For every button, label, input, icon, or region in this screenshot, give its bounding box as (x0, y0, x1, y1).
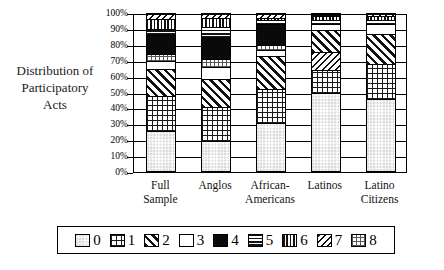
bar-segment-7[interactable] (146, 13, 176, 19)
bar-segment-3[interactable] (311, 24, 341, 30)
bar-segment-1[interactable] (366, 64, 396, 99)
legend-label: 5 (266, 233, 274, 248)
bar-latino-citizens[interactable] (366, 14, 396, 172)
bar-segment-6[interactable] (366, 16, 396, 20)
bar-segment-4[interactable] (146, 35, 176, 54)
x-axis-label-line-1: Latino (337, 179, 423, 193)
bar-segment-7[interactable] (311, 52, 341, 70)
bar-segment-0[interactable] (366, 99, 396, 172)
plot-area (133, 14, 407, 173)
legend-item-3[interactable]: 3 (179, 233, 205, 248)
bar-segment-0[interactable] (146, 131, 176, 172)
speckle-swatch (179, 234, 194, 247)
y-axis-tick-40: 40% (88, 104, 128, 114)
y-axis-tick-50: 50% (88, 89, 128, 99)
y-axis-tick-70: 70% (88, 57, 128, 67)
bar-segment-1[interactable] (201, 107, 231, 141)
y-axis-tick-30: 30% (88, 120, 128, 130)
bar-segment-8[interactable] (146, 54, 176, 60)
narrow-diagonal-swatch (317, 234, 332, 247)
open-grid-swatch (110, 234, 125, 247)
bar-segment-4[interactable] (256, 24, 286, 45)
bar-segment-0[interactable] (201, 141, 231, 172)
legend-item-6[interactable]: 6 (282, 233, 308, 248)
bar-segment-5[interactable] (366, 20, 396, 24)
bar-segment-5[interactable] (256, 20, 286, 24)
legend-label: 6 (300, 233, 308, 248)
legend-label: 4 (231, 233, 239, 248)
bar-african-americans[interactable] (256, 14, 286, 172)
bar-group (134, 14, 407, 172)
x-axis-label-line-2: Citizens (337, 193, 423, 207)
legend: 012345678 (57, 226, 395, 254)
y-axis-tick-90: 90% (88, 25, 128, 35)
legend-item-2[interactable]: 2 (144, 233, 170, 248)
bar-segment-5[interactable] (311, 20, 341, 24)
bar-segment-0[interactable] (311, 93, 341, 173)
y-axis-tick-80: 80% (88, 41, 128, 51)
bar-segment-1[interactable] (311, 70, 341, 92)
bar-segment-7[interactable] (201, 13, 231, 18)
bar-segment-2[interactable] (256, 56, 286, 89)
bar-segment-4[interactable] (201, 38, 231, 59)
y-axis-tick-60: 60% (88, 73, 128, 83)
y-axis-tick-10: 10% (88, 152, 128, 162)
x-axis-label-4: LatinoCitizens (337, 179, 423, 206)
wide-diagonal-swatch (144, 234, 159, 247)
legend-label: 3 (197, 233, 205, 248)
y-axis-tick-20: 20% (88, 136, 128, 146)
legend-item-1[interactable]: 1 (110, 233, 136, 248)
bar-segment-2[interactable] (366, 34, 396, 64)
bar-full-sample[interactable] (146, 14, 176, 172)
bar-segment-3[interactable] (146, 61, 176, 69)
horizontal-lines-swatch (248, 234, 263, 247)
legend-label: 8 (369, 233, 377, 248)
legend-label: 1 (128, 233, 136, 248)
vertical-lines-swatch (282, 234, 297, 247)
bar-anglos[interactable] (201, 14, 231, 172)
legend-item-8[interactable]: 8 (351, 233, 377, 248)
light-checker-swatch (351, 234, 366, 247)
legend-label: 7 (335, 233, 343, 248)
y-axis-tick-0: 0% (88, 168, 128, 178)
legend-items: 012345678 (71, 233, 382, 248)
legend-item-0[interactable]: 0 (75, 233, 101, 248)
x-axis-label-line-2: Sample (117, 193, 203, 207)
legend-label: 0 (93, 233, 101, 248)
bar-segment-1[interactable] (256, 89, 286, 123)
bar-segment-6[interactable] (256, 18, 286, 20)
legend-item-4[interactable]: 4 (213, 233, 239, 248)
bar-segment-2[interactable] (311, 30, 341, 52)
bar-latinos[interactable] (311, 14, 341, 172)
dense-checker-swatch (75, 234, 90, 247)
y-axis-tick-mark (127, 173, 133, 174)
legend-label: 2 (162, 233, 170, 248)
y-axis-tick-100: 100% (88, 9, 128, 19)
chart-root: Distribution of Participatory Acts 100%9… (0, 0, 444, 270)
bar-segment-8[interactable] (256, 45, 286, 50)
bar-segment-6[interactable] (201, 18, 231, 28)
bar-segment-6[interactable] (146, 19, 176, 29)
bar-segment-7[interactable] (256, 13, 286, 18)
bar-segment-3[interactable] (201, 67, 231, 79)
bar-segment-5[interactable] (146, 29, 176, 35)
legend-item-7[interactable]: 7 (317, 233, 343, 248)
bar-segment-2[interactable] (146, 69, 176, 96)
bar-segment-1[interactable] (146, 96, 176, 131)
legend-item-5[interactable]: 5 (248, 233, 274, 248)
bar-segment-5[interactable] (201, 27, 231, 38)
bar-segment-3[interactable] (256, 50, 286, 56)
bar-segment-2[interactable] (201, 79, 231, 107)
bar-segment-0[interactable] (256, 123, 286, 172)
x-axis-label-line-2: Americans (227, 193, 313, 207)
bar-segment-6[interactable] (311, 16, 341, 20)
solid-black-swatch (213, 234, 228, 247)
bar-segment-7[interactable] (366, 13, 396, 16)
bar-segment-3[interactable] (366, 24, 396, 34)
bar-segment-8[interactable] (201, 59, 231, 67)
bar-segment-4[interactable] (311, 13, 341, 16)
